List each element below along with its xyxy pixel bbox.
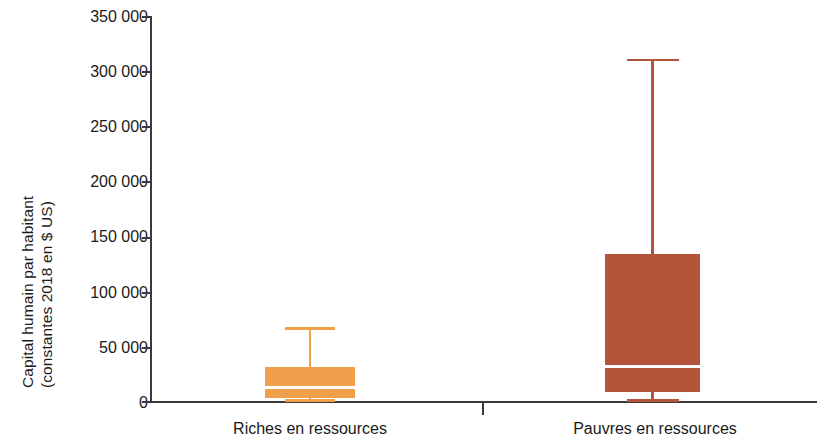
median-line — [265, 386, 355, 389]
x-axis-label-riches: Riches en ressources — [170, 420, 450, 438]
y-tick-label-350000: 350 000 — [52, 9, 148, 25]
whisker-line-upper — [651, 59, 653, 254]
whisker-cap-lower — [285, 399, 335, 402]
y-tick-label-150000: 150 000 — [52, 229, 148, 245]
x-axis-label-pauvres: Pauvres en ressources — [515, 420, 795, 438]
y-tick-label-50000: 50 000 — [52, 340, 148, 356]
y-axis-tick-labels: 350 000 300 000 250 000 200 000 150 000 … — [52, 0, 148, 446]
y-tick-label-200000: 200 000 — [52, 174, 148, 190]
median-line — [605, 365, 700, 368]
x-axis-center-tick — [482, 403, 484, 415]
y-tick-label-300000: 300 000 — [52, 64, 148, 80]
boxplot-chart: Capital humain par habitant (constantes … — [0, 0, 817, 446]
whisker-cap-upper — [285, 327, 335, 330]
box-iqr — [605, 254, 700, 392]
y-tick-label-100000: 100 000 — [52, 285, 148, 301]
y-tick-label-250000: 250 000 — [52, 119, 148, 135]
y-axis-title-line-1: Capital humain par habitant — [18, 196, 37, 388]
whisker-cap-upper — [627, 59, 679, 62]
whisker-line-lower — [651, 392, 653, 399]
y-axis-title: Capital humain par habitant (constantes … — [0, 0, 56, 410]
whisker-cap-lower — [627, 399, 679, 402]
box-iqr — [265, 367, 355, 398]
plot-area — [150, 0, 817, 403]
whisker-line-upper — [309, 327, 311, 367]
y-tick-label-0: 0 — [52, 395, 148, 411]
